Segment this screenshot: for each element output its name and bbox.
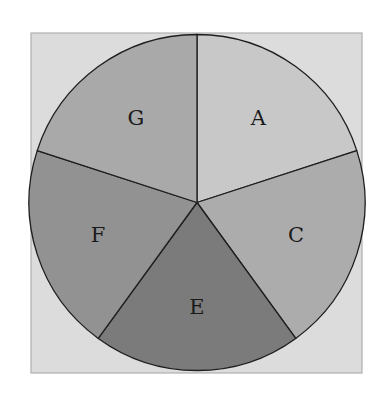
slice-label-f: F — [91, 223, 106, 247]
slice-label-g: G — [127, 106, 144, 130]
pie-chart: ACEFG — [0, 0, 387, 407]
slice-label-c: C — [288, 223, 304, 247]
pie-slices — [29, 35, 365, 371]
slice-label-e: E — [189, 295, 204, 319]
slice-label-a: A — [250, 106, 267, 130]
